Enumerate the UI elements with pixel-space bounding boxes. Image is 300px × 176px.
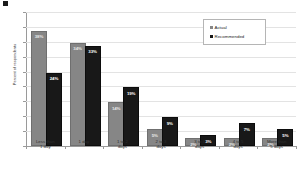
bar-group: 38%24% (26, 12, 65, 146)
y-axis-tick-mark (23, 101, 26, 102)
x-axis-tick-label: More than5 days (251, 139, 300, 150)
bar-group: 34%33% (65, 12, 104, 146)
legend-label-recommended: Recommended (215, 34, 245, 39)
x-axis-tick-label-line: 5 days (251, 144, 300, 149)
x-axis-tick-label-line: 1 day (19, 144, 71, 149)
legend-swatch-recommended-icon (210, 35, 213, 38)
bar-value-label: 5% (148, 133, 162, 138)
bar-actual: 34% (70, 43, 86, 146)
legend-swatch-actual-icon (210, 26, 213, 29)
y-axis-tick-mark (23, 116, 26, 117)
y-axis-tick-mark (23, 42, 26, 43)
bar-value-label: 14% (109, 106, 123, 111)
bar-value-label: 19% (124, 91, 138, 96)
bar-group: 5%9% (142, 12, 181, 146)
y-axis-tick-mark (23, 86, 26, 87)
bar-value-label: 24% (47, 76, 61, 81)
bar-group: 14%19% (103, 12, 142, 146)
y-axis-tick-mark (23, 27, 26, 28)
bar-recommended: 33% (85, 46, 101, 146)
y-axis-tick-mark (23, 72, 26, 73)
chart-legend: Actual Recommended (203, 19, 266, 45)
y-axis-tick-mark (23, 57, 26, 58)
bar-actual: 38% (31, 31, 47, 146)
bar-value-label: 5% (278, 133, 292, 138)
legend-label-actual: Actual (215, 25, 227, 30)
bar-chart-figure: Percent of respondents 38%24%34%33%14%19… (0, 0, 300, 176)
bar-value-label: 34% (71, 46, 85, 51)
bar-value-label: 7% (240, 127, 254, 132)
bar-recommended: 24% (46, 73, 62, 146)
y-axis-tick-mark (23, 131, 26, 132)
bar-value-label: 9% (163, 121, 177, 126)
corner-artifact-mark (3, 1, 8, 6)
bar-value-label: 33% (86, 49, 100, 54)
y-axis-title: Percent of respondents (12, 10, 17, 120)
bar-recommended: 19% (123, 87, 139, 146)
bar-value-label: 38% (32, 34, 46, 39)
y-axis-tick-mark (23, 12, 26, 13)
